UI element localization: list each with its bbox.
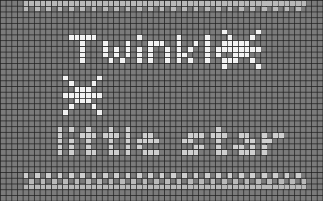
border-stitch — [58, 173, 63, 178]
border-stitch — [279, 185, 284, 190]
border-stitch — [250, 185, 255, 190]
border-stitch — [211, 185, 216, 190]
border-stitch — [86, 185, 91, 190]
letter-stitch — [154, 139, 159, 144]
border-stitch — [290, 185, 295, 190]
letter-stitch — [120, 58, 125, 63]
letter-stitch — [165, 47, 170, 52]
border-stitch — [75, 179, 80, 184]
letter-stitch — [148, 133, 153, 138]
letter-stitch — [86, 145, 91, 150]
letter-stitch — [182, 53, 187, 58]
border-stitch — [160, 7, 165, 12]
border-stitch — [262, 185, 267, 190]
star-icon — [256, 30, 261, 35]
border-stitch — [211, 179, 216, 184]
letter-stitch — [205, 35, 210, 40]
letter-stitch — [177, 41, 182, 46]
letter-stitch — [80, 35, 85, 40]
border-stitch — [250, 7, 255, 12]
letter-stitch — [86, 133, 91, 138]
star-icon — [228, 47, 233, 52]
border-stitch — [92, 1, 97, 6]
border-stitch — [75, 1, 80, 6]
border-stitch — [177, 179, 182, 184]
border-stitch — [29, 1, 34, 6]
border-stitch — [41, 179, 46, 184]
letter-stitch — [194, 133, 199, 138]
border-stitch — [171, 185, 176, 190]
border-stitch — [216, 7, 221, 12]
border-stitch — [52, 179, 57, 184]
letter-stitch — [114, 133, 119, 138]
letter-stitch — [86, 35, 91, 40]
letter-stitch — [80, 53, 85, 58]
border-stitch — [80, 173, 85, 178]
border-stitch — [126, 1, 131, 6]
letter-stitch — [250, 150, 255, 155]
border-stitch — [188, 185, 193, 190]
border-stitch — [296, 7, 301, 12]
border-stitch — [233, 1, 238, 6]
letter-stitch — [103, 53, 108, 58]
border-stitch — [285, 173, 290, 178]
star-icon — [75, 99, 80, 104]
letter-stitch — [58, 127, 63, 132]
letter-stitch — [126, 139, 131, 144]
letter-stitch — [69, 150, 74, 155]
letter-stitch — [92, 35, 97, 40]
letter-stitch — [194, 145, 199, 150]
letter-stitch — [148, 47, 153, 52]
border-stitch — [285, 1, 290, 6]
border-stitch — [154, 179, 159, 184]
border-stitch — [114, 7, 119, 12]
letter-stitch — [148, 58, 153, 63]
border-stitch — [256, 1, 261, 6]
border-stitch — [267, 185, 272, 190]
star-icon — [228, 35, 233, 40]
letter-stitch — [199, 145, 204, 150]
border-stitch — [69, 1, 74, 6]
border-stitch — [97, 1, 102, 6]
letter-stitch — [216, 53, 221, 58]
letter-stitch — [126, 41, 131, 46]
star-icon — [239, 47, 244, 52]
border-stitch — [262, 1, 267, 6]
border-stitch — [120, 1, 125, 6]
letter-stitch — [143, 139, 148, 144]
border-stitch — [228, 1, 233, 6]
border-stitch — [126, 7, 131, 12]
letter-stitch — [137, 139, 142, 144]
letter-stitch — [58, 145, 63, 150]
border-stitch — [239, 185, 244, 190]
border-stitch — [165, 1, 170, 6]
border-stitch — [194, 1, 199, 6]
border-stitch — [103, 185, 108, 190]
border-stitch — [302, 179, 307, 184]
letter-stitch — [233, 145, 238, 150]
star-icon — [69, 104, 74, 109]
letter-stitch — [245, 150, 250, 155]
border-stitch — [199, 1, 204, 6]
star-icon — [80, 93, 85, 98]
star-icon — [250, 47, 255, 52]
star-icon — [233, 41, 238, 46]
border-stitch — [285, 185, 290, 190]
border-stitch — [46, 173, 51, 178]
border-stitch — [194, 185, 199, 190]
border-stitch — [250, 173, 255, 178]
star-icon — [92, 93, 97, 98]
star-icon — [86, 87, 91, 92]
border-stitch — [290, 1, 295, 6]
letter-stitch — [250, 139, 255, 144]
border-stitch — [216, 1, 221, 6]
letter-stitch — [109, 127, 114, 132]
star-icon — [97, 110, 102, 115]
letter-stitch — [69, 145, 74, 150]
border-stitch — [46, 1, 51, 6]
letter-stitch — [109, 145, 114, 150]
border-stitch — [267, 179, 272, 184]
border-stitch — [245, 1, 250, 6]
border-stitch — [126, 185, 131, 190]
letter-stitch — [137, 145, 142, 150]
